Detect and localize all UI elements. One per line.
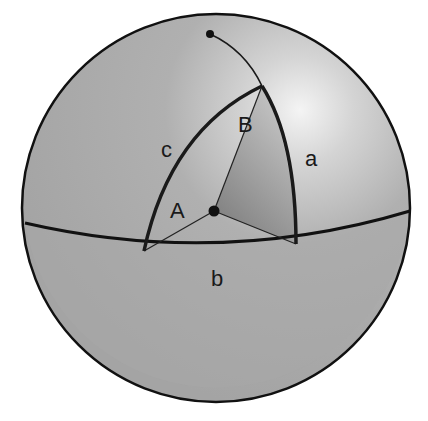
spherical-triangle-diagram: c B a A b bbox=[0, 0, 428, 421]
pole-point bbox=[206, 30, 214, 38]
label-side-b: b bbox=[211, 266, 223, 291]
label-side-c: c bbox=[161, 137, 172, 162]
label-angle-A: A bbox=[170, 198, 185, 223]
label-side-a: a bbox=[305, 146, 318, 171]
label-angle-B: B bbox=[238, 112, 253, 137]
center-point bbox=[209, 206, 220, 217]
